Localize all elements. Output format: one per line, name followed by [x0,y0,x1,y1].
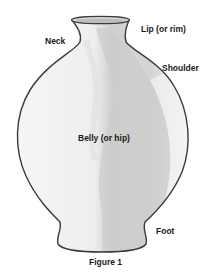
vase-lip [72,16,130,23]
lip-label: Lip (or rim) [141,25,186,34]
vase-figure: Neck Lip (or rim) Shoulder Belly (or hip… [0,0,211,275]
figure-caption: Figure 1 [89,258,122,267]
belly-label: Belly (or hip) [78,134,130,143]
neck-label: Neck [45,37,65,46]
shoulder-label: Shoulder [162,64,199,73]
foot-label: Foot [156,227,174,236]
